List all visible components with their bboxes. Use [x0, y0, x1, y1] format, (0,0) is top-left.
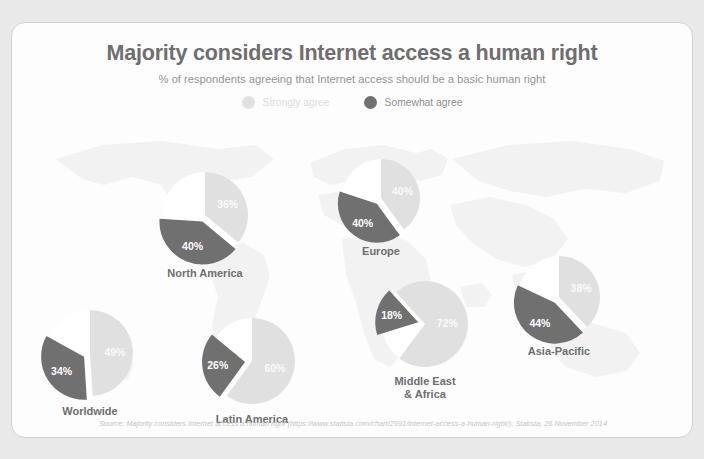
legend: Strongly agree Somewhat agree — [12, 96, 692, 109]
pie-value-asia-pacific-somewhat-agree: 44% — [529, 317, 550, 329]
pie-caption-line: & Africa — [394, 388, 455, 401]
chart-subtitle: % of respondents agreeing that Internet … — [12, 73, 692, 85]
pie-value-europe-somewhat-agree: 40% — [352, 217, 373, 229]
legend-item-somewhat-agree[interactable]: Somewhat agree — [364, 96, 463, 109]
pie-north-america — [159, 172, 248, 265]
pie-caption-line: Asia-Pacific — [528, 345, 590, 358]
pie-value-north-america-strongly-agree: 36% — [217, 198, 238, 210]
pie-value-asia-pacific-strongly-agree: 38% — [571, 282, 592, 294]
pie-caption-line: North America — [167, 267, 242, 280]
chart-header: Majority considers Internet access a hum… — [12, 23, 692, 109]
legend-item-strongly-agree[interactable]: Strongly agree — [242, 96, 330, 109]
pie-asia-pacific — [514, 256, 600, 344]
page-title: Majority considers Internet access a hum… — [12, 23, 692, 66]
pie-value-middle-east-africa-somewhat-agree: 18% — [381, 309, 402, 321]
legend-label-somewhat-agree: Somewhat agree — [385, 97, 463, 108]
pie-value-north-america-somewhat-agree: 40% — [182, 240, 203, 252]
pie-value-europe-strongly-agree: 40% — [392, 185, 413, 197]
pie-value-latin-america-somewhat-agree: 26% — [207, 359, 228, 371]
pie-value-middle-east-africa-strongly-agree: 72% — [437, 317, 458, 329]
pie-europe — [338, 159, 420, 243]
source-footnote: Source: Majority considers Internet acce… — [12, 419, 693, 428]
pie-caption-line: Worldwide — [62, 405, 117, 418]
legend-label-strongly-agree: Strongly agree — [263, 97, 330, 108]
pie-value-worldwide-somewhat-agree: 34% — [51, 365, 72, 377]
pie-caption-line: Middle East — [394, 375, 455, 388]
legend-swatch-somewhat-agree — [364, 96, 377, 109]
pie-value-latin-america-strongly-agree: 60% — [264, 362, 285, 374]
pie-value-worldwide-strongly-agree: 49% — [104, 346, 125, 358]
legend-swatch-strongly-agree — [242, 96, 255, 109]
infographic-card: Majority considers Internet access a hum… — [11, 22, 693, 438]
pie-caption-line: Europe — [362, 245, 400, 258]
